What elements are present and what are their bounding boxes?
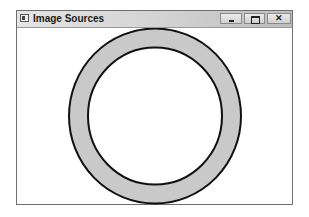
ring-outer-edge <box>69 29 241 204</box>
drawing-canvas <box>17 28 292 204</box>
title-bar[interactable]: Image Sources ✕ <box>17 11 292 28</box>
maximize-icon <box>251 16 260 24</box>
window-title: Image Sources <box>33 12 104 26</box>
ring-inner-edge <box>88 48 222 185</box>
image-sources-window: Image Sources ✕ <box>16 10 293 205</box>
minimize-button[interactable] <box>220 13 242 24</box>
ring-shape <box>17 28 292 205</box>
close-icon: ✕ <box>268 14 290 23</box>
close-button[interactable]: ✕ <box>267 13 291 24</box>
app-icon[interactable] <box>20 14 29 22</box>
maximize-button[interactable] <box>244 13 265 24</box>
minimize-icon <box>229 20 234 22</box>
